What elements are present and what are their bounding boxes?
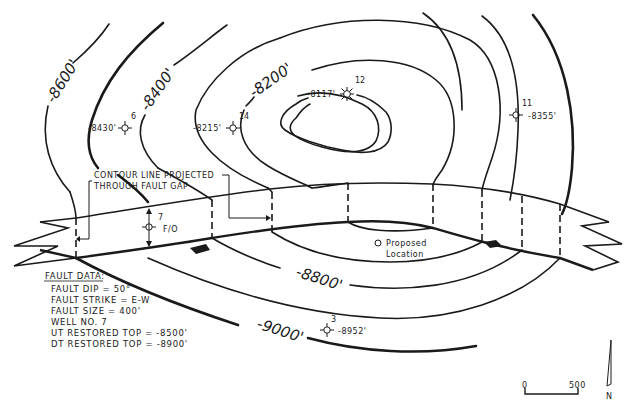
contour-8600 <box>73 24 109 63</box>
projected-annotation-line-1: CONTOUR LINE PROJECTED <box>94 171 214 180</box>
well-12-gas-icon <box>340 87 354 101</box>
proposed-location-label-1: Proposed <box>386 239 427 248</box>
contour-downthrown-closure <box>348 222 433 231</box>
fault-break-right <box>582 222 622 270</box>
north-arrow-icon <box>607 340 611 386</box>
contour-8200 <box>312 60 454 185</box>
contour-8800-left <box>212 238 280 268</box>
well-6-number: 6 <box>131 112 136 121</box>
contour-8200-left <box>241 110 312 188</box>
contour-label-8200: -8200' <box>246 59 295 101</box>
contour-8700 <box>272 232 482 262</box>
scale-bar-start: 0 <box>522 381 528 390</box>
well-7-arrow-down-icon <box>146 241 152 247</box>
fault-data-line-dip: FAULT DIP = 50° <box>51 284 131 294</box>
fault-data-line-well: WELL NO. 7 <box>51 317 107 327</box>
contour-8600-lower <box>45 106 70 192</box>
scale-bar-end: 500 <box>569 381 586 390</box>
fault-lower-trace <box>40 221 593 270</box>
north-arrow-label: N <box>606 392 612 401</box>
projected-leader-right-arrow-icon <box>266 215 271 221</box>
fault-data-title: FAULT DATA: <box>45 271 105 281</box>
well-7-number: 7 <box>158 213 163 222</box>
well-12-number: 12 <box>355 76 365 85</box>
proposed-location-icon <box>375 240 381 246</box>
well-14-depth: -8215' <box>193 124 221 133</box>
fault-break-left <box>14 222 76 266</box>
structure-contour-map: -8600' -8400' -8200' -8800' -9000' 6 -84… <box>0 0 635 406</box>
projected-leader-left <box>80 181 92 239</box>
well-11-depth: -8355' <box>528 112 556 121</box>
contour-8900 <box>148 258 560 318</box>
proposed-location-label-2: Location <box>386 250 424 259</box>
well-3-number: 3 <box>331 315 336 324</box>
contour-label-8400: -8400' <box>137 65 179 114</box>
well-7-arrow-up-icon <box>146 208 152 214</box>
well-7-status: F/O <box>163 225 178 234</box>
well-6-oil-icon <box>118 121 132 135</box>
fault-data-line-dt-top: DT RESTORED TOP = -8900' <box>51 339 188 349</box>
contour-8600-to-fault <box>70 192 76 218</box>
contour-8800-right <box>350 250 522 288</box>
well-12-depth: -8117' <box>307 90 335 99</box>
well-14-number: 14 <box>239 112 249 121</box>
well-11-number: 11 <box>522 99 532 108</box>
contour-8400-lower <box>140 115 158 168</box>
fault-data-line-ut-top: UT RESTORED TOP = -8500' <box>51 328 188 338</box>
well-14-oil-icon <box>226 121 240 135</box>
well-11-oil-icon <box>509 108 523 122</box>
projected-leader-right <box>222 175 266 218</box>
contour-9000-right <box>308 338 476 352</box>
fault-data-line-strike: FAULT STRIKE = E-W <box>51 295 150 305</box>
projected-annotation-line-2: THROUGH FAULT GAP <box>93 182 188 191</box>
contour-label-8600: -8600' <box>42 56 83 106</box>
fault-hachure-left <box>190 244 210 254</box>
contour-8300 <box>280 20 500 190</box>
well-6-depth: -8430' <box>88 124 116 133</box>
contour-label-9000: -9000' <box>255 315 306 347</box>
contour-label-8800: -8800' <box>294 263 345 295</box>
contour-closure-8117 <box>290 93 378 152</box>
contour-8400 <box>174 25 227 65</box>
fault-data-line-size: FAULT SIZE = 400' <box>51 306 141 316</box>
well-3-oil-icon <box>320 323 334 337</box>
well-3-depth: -8952' <box>338 327 366 336</box>
contour-8400-top <box>423 13 462 110</box>
contour-8200-upper-left <box>246 97 254 106</box>
